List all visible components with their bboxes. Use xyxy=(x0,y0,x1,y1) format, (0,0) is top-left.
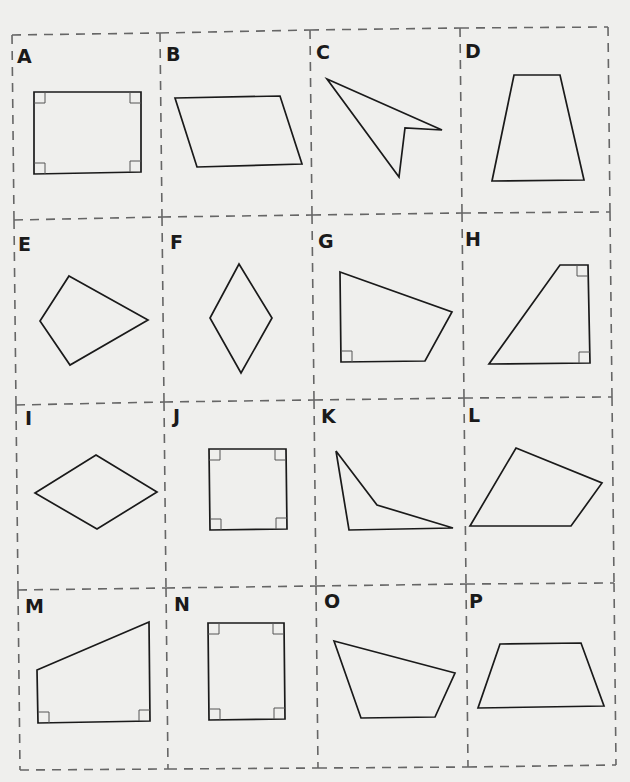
grid-h-line xyxy=(166,586,316,588)
shape-f-rhombus xyxy=(210,264,272,373)
right-angle-marker-icon xyxy=(273,623,284,634)
grid-v-line xyxy=(160,33,162,217)
grid-v-line xyxy=(612,397,614,583)
shape-outline xyxy=(34,92,141,174)
shape-d-trapezoid xyxy=(492,75,584,181)
shape-l-quadrilateral xyxy=(470,448,602,526)
grid-h-line xyxy=(312,213,462,215)
grid-h-line xyxy=(460,27,608,28)
right-angle-marker-icon xyxy=(274,708,285,719)
grid-h-line xyxy=(168,768,318,769)
cell-label-h: H xyxy=(465,230,481,249)
grid-h-line xyxy=(468,765,616,767)
shape-m-right-trapezoid xyxy=(37,622,150,723)
grid-v-line xyxy=(162,217,164,402)
shape-n-rectangle xyxy=(208,623,285,720)
shape-outline xyxy=(175,96,302,167)
grid-v-line xyxy=(166,588,168,769)
cell-label-g: G xyxy=(318,232,334,251)
grid-h-line xyxy=(310,28,460,30)
shape-j-square xyxy=(209,449,287,530)
cell-label-e: E xyxy=(18,235,31,254)
shape-a-rectangle xyxy=(34,92,141,174)
right-angle-marker-icon xyxy=(130,161,141,172)
right-angle-marker-icon xyxy=(577,265,588,276)
cell-label-c: C xyxy=(316,43,330,62)
grid-h-line xyxy=(14,217,162,220)
grid-v-line xyxy=(608,27,610,212)
right-angle-marker-icon xyxy=(209,709,220,720)
grid-v-line xyxy=(14,220,16,405)
shapes-canvas xyxy=(0,0,630,782)
shape-outline xyxy=(340,272,452,362)
worksheet-page: A B C D E F G H I J K L M N O P xyxy=(0,0,630,782)
shape-i-rhombus xyxy=(35,455,157,529)
right-angle-marker-icon xyxy=(38,712,49,723)
cell-label-k: K xyxy=(321,407,336,426)
grid-h-line xyxy=(18,588,166,590)
grid-h-line xyxy=(16,402,164,405)
cell-label-l: L xyxy=(468,406,480,425)
right-angle-marker-icon xyxy=(130,92,141,103)
grid-h-line xyxy=(318,767,468,768)
grid-v-line xyxy=(164,402,166,588)
right-angle-marker-icon xyxy=(276,518,287,529)
right-angle-marker-icon xyxy=(579,352,590,363)
grid-h-line xyxy=(162,215,312,217)
shape-k-concave-quadrilateral xyxy=(336,451,453,530)
grid-h-line xyxy=(20,769,168,770)
grid-v-line xyxy=(16,405,18,590)
shape-c-arrowhead xyxy=(327,79,442,177)
shape-outline xyxy=(35,455,157,529)
shape-outline xyxy=(336,451,453,530)
cell-label-i: I xyxy=(25,409,32,428)
shape-outline xyxy=(40,276,148,365)
cell-label-b: B xyxy=(166,45,180,64)
shape-outline xyxy=(210,264,272,373)
grid-v-line xyxy=(464,398,466,584)
grid-h-line xyxy=(164,400,314,402)
cell-label-j: J xyxy=(173,407,180,426)
cell-label-n: N xyxy=(174,595,190,614)
grid-v-line xyxy=(312,215,314,400)
shape-outline xyxy=(209,449,287,530)
shape-g-quadrilateral xyxy=(340,272,452,362)
grid-h-line xyxy=(314,398,464,400)
cell-label-d: D xyxy=(465,42,481,61)
cell-label-p: P xyxy=(469,592,483,611)
grid-h-line xyxy=(466,583,614,584)
grid-v-line xyxy=(316,586,318,768)
right-angle-marker-icon xyxy=(34,92,45,103)
grid-v-line xyxy=(12,35,14,220)
grid-v-line xyxy=(460,28,462,213)
shape-o-quadrilateral xyxy=(334,641,455,718)
shape-outline xyxy=(478,643,604,708)
shape-outline xyxy=(492,75,584,181)
right-angle-marker-icon xyxy=(275,449,286,460)
cell-label-a: A xyxy=(17,47,32,66)
shape-outline xyxy=(489,265,590,364)
shape-outline xyxy=(334,641,455,718)
grid-v-line xyxy=(310,30,312,215)
right-angle-marker-icon xyxy=(209,449,220,460)
grid-v-line xyxy=(462,213,464,398)
grid-h-line xyxy=(464,397,612,398)
grid-v-line xyxy=(610,212,612,397)
shape-b-parallelogram xyxy=(175,96,302,167)
shape-outline xyxy=(470,448,602,526)
cell-label-m: M xyxy=(25,597,44,616)
shape-e-kite xyxy=(40,276,148,365)
right-angle-marker-icon xyxy=(210,519,221,530)
right-angle-marker-icon xyxy=(208,623,219,634)
shape-layer xyxy=(34,75,604,723)
grid-v-line xyxy=(18,590,20,770)
grid-h-line xyxy=(160,30,310,33)
grid-v-line xyxy=(466,584,468,767)
right-angle-marker-icon xyxy=(139,710,150,721)
right-angle-marker-icon xyxy=(34,163,45,174)
shape-outline xyxy=(327,79,442,177)
right-angle-marker-icon xyxy=(341,351,352,362)
shape-outline xyxy=(37,622,150,723)
shape-h-right-trapezoid xyxy=(489,265,590,364)
shape-outline xyxy=(208,623,285,720)
